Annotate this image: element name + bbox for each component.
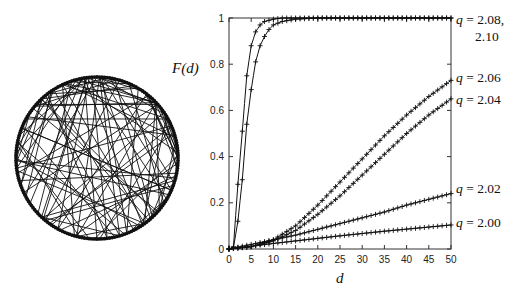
x-tick-label: 50 — [445, 254, 457, 265]
plot-axes — [229, 18, 451, 249]
y-tick-label: 0.6 — [210, 105, 224, 116]
y-tick-label: 0.2 — [210, 197, 224, 208]
y-tick-label: 0.4 — [210, 151, 224, 162]
plot-curves — [227, 16, 454, 252]
x-tick-label: 35 — [379, 254, 391, 265]
x-tick-label: 40 — [401, 254, 413, 265]
x-tick-label: 25 — [334, 254, 346, 265]
x-tick-label: 0 — [226, 254, 232, 265]
series-208 — [227, 16, 454, 252]
x-tick-label: 30 — [357, 254, 369, 265]
label-q-2-02: q = 2.02 — [456, 181, 501, 196]
x-tick-label: 45 — [423, 254, 435, 265]
x-tick-label: 5 — [248, 254, 254, 265]
y-tick-label: 0.8 — [210, 59, 224, 70]
label-q-2-00: q = 2.00 — [456, 215, 501, 230]
x-axis-label: d — [336, 270, 344, 286]
figure: 0510152025303540455000.20.40.60.81 F(d) … — [0, 0, 514, 294]
series-202 — [227, 191, 454, 251]
label-q-2-06: q = 2.06 — [456, 70, 501, 85]
label-q-2-10-cont: 2.10 — [475, 29, 499, 44]
y-axis-label: F(d) — [171, 60, 199, 77]
y-tick-label: 1 — [218, 13, 224, 24]
x-tick-label: 20 — [312, 254, 324, 265]
label-q-2-04: q = 2.04 — [456, 92, 501, 107]
series-210 — [227, 16, 454, 252]
x-tick-label: 15 — [290, 254, 302, 265]
x-tick-label: 10 — [268, 254, 280, 265]
ring-network-graph — [14, 75, 180, 241]
y-tick-label: 0 — [218, 244, 224, 255]
label-q-2-08-2-10: q = 2.08, — [456, 12, 504, 27]
distribution-plot: 0510152025303540455000.20.40.60.81 F(d) … — [171, 12, 504, 286]
